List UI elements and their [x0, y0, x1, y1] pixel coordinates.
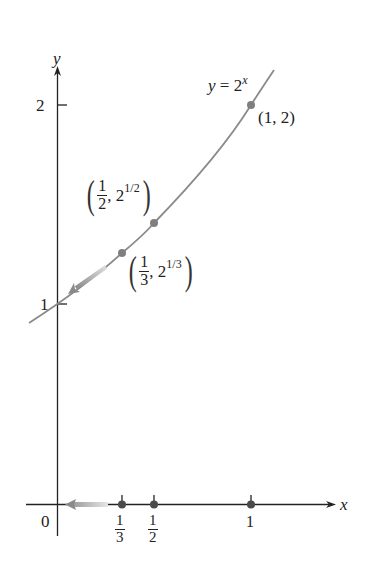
point-label-third: (13, 21/3) — [126, 251, 195, 291]
point-third — [118, 249, 126, 257]
point-one — [247, 101, 255, 109]
y-axis-label: y — [53, 50, 61, 67]
point-label-one: (1, 2) — [258, 109, 295, 126]
function-label: y = 2x — [208, 74, 247, 94]
origin-label: 0 — [41, 513, 50, 530]
point-half — [150, 219, 158, 227]
point-label-half: (12, 21/2) — [84, 175, 153, 215]
y-tick-label-1: 1 — [40, 296, 49, 313]
x-tick-label-one: 1 — [246, 514, 254, 530]
x-tick-label-third: 13 — [115, 513, 125, 546]
x-point-half — [150, 501, 158, 509]
y-tick-label-2: 2 — [36, 97, 45, 114]
x-axis-label: x — [340, 496, 348, 513]
x-point-one — [247, 501, 255, 509]
x-tick-label-half: 12 — [148, 513, 158, 546]
x-point-third — [118, 501, 126, 509]
curve-approach-arrow — [68, 267, 106, 294]
x-axis-approach-arrow — [65, 499, 108, 510]
